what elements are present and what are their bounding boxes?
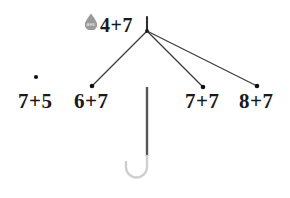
water-droplet-icon: ARK bbox=[84, 13, 98, 30]
umbrella-handle-hook bbox=[126, 156, 147, 178]
vertex-junction-dot bbox=[145, 29, 149, 33]
branch-line-left bbox=[92, 31, 147, 86]
node-dot-7-plus-5[interactable] bbox=[34, 75, 38, 79]
node-dot-8-plus-7[interactable] bbox=[255, 84, 260, 89]
droplet-icon-label: ARK bbox=[86, 22, 95, 27]
leaf-expression-7-plus-5: 7+5 bbox=[18, 91, 52, 112]
branch-line-far-right bbox=[147, 31, 257, 86]
branch-line-middle-right bbox=[147, 31, 203, 87]
leaf-expression-8-plus-7: 8+7 bbox=[239, 91, 273, 112]
node-dot-6-plus-7[interactable] bbox=[90, 84, 95, 89]
leaf-expression-6-plus-7: 6+7 bbox=[74, 91, 108, 112]
root-expression: 4+7 bbox=[100, 15, 133, 35]
worksheet-canvas: ARK 4+7 7+5 6+7 7+7 8+7 bbox=[0, 0, 290, 198]
leaf-expression-7-plus-7: 7+7 bbox=[185, 91, 219, 112]
